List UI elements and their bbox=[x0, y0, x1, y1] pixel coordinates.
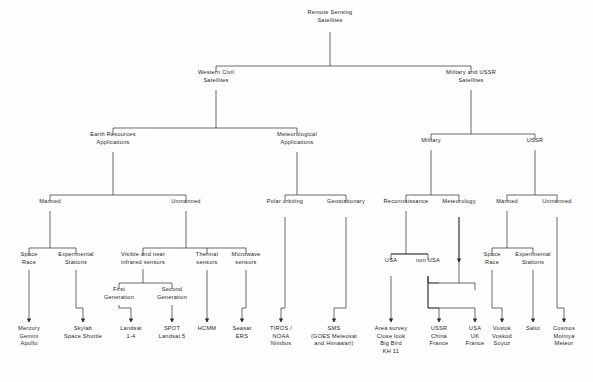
node-cosmos: CosmosMolniyaMeteor bbox=[553, 325, 575, 346]
node-expstations2: ExperimentalStations bbox=[515, 251, 551, 265]
node-skylab-line-0: Skylab bbox=[74, 325, 92, 331]
node-sms-line-2: and Himawari) bbox=[314, 340, 353, 346]
node-recon: Reconnaissance bbox=[384, 198, 429, 204]
arrowhead-tiros bbox=[279, 319, 283, 322]
node-sms-line-0: SMS bbox=[328, 325, 341, 331]
arrow-firstgen-to-landsat14 bbox=[119, 305, 131, 322]
arrowhead-landsat14 bbox=[129, 319, 133, 322]
node-areasurvey-line-3: KH 11 bbox=[383, 348, 399, 354]
node-usauk: USAUKFrance bbox=[466, 325, 485, 346]
node-tiros-line-2: Nimbus bbox=[271, 340, 291, 346]
arrowhead-usauk2 bbox=[457, 259, 461, 262]
node-meteoapp: MeteorologicalApplications bbox=[277, 131, 317, 145]
node-milussr-line-1: Satellites bbox=[458, 77, 483, 83]
node-spacerace1-line-1: Race bbox=[22, 259, 36, 265]
node-milussr: Military and USSRSatellites bbox=[446, 69, 496, 83]
node-salut-line-0: Salut bbox=[526, 325, 540, 331]
node-microwave-line-0: Microwave bbox=[232, 251, 261, 257]
node-ussrmanned-line-0: Manned bbox=[496, 198, 518, 204]
arrowhead-salut bbox=[531, 319, 535, 322]
node-cosmos-line-2: Meteor bbox=[555, 340, 574, 346]
node-mercury-line-2: Apollo bbox=[20, 340, 37, 346]
connector-manned bbox=[29, 211, 76, 254]
node-skylab-line-1: Space Shuttle bbox=[64, 333, 102, 339]
node-tiros-line-1: NOAA bbox=[273, 333, 290, 339]
node-earthres: Earth ResourcesApplications bbox=[90, 131, 135, 145]
node-meteorology: Meteorology bbox=[442, 198, 476, 204]
node-vostok-line-1: Voskod bbox=[492, 333, 512, 339]
connector-milussr bbox=[431, 90, 535, 140]
node-mercury-line-1: Gemini bbox=[19, 333, 38, 339]
node-firstgen-line-0: First bbox=[113, 286, 125, 292]
node-spacerace2-line-0: Space bbox=[483, 251, 500, 257]
node-meteorology-line-0: Meteorology bbox=[442, 198, 476, 204]
node-areasurvey: Area surveyClose lookBig BirdKH 11 bbox=[375, 325, 408, 354]
node-firstgen: FirstGeneration bbox=[104, 286, 134, 300]
node-ussrchina-line-0: USSR bbox=[431, 325, 448, 331]
node-tiros: TIROS /NOAANimbus bbox=[270, 325, 292, 346]
connector-meteoapp bbox=[285, 152, 346, 201]
node-milussr-line-0: Military and USSR bbox=[446, 69, 496, 75]
arrowhead-sms bbox=[332, 319, 336, 322]
node-visnir: Visible and nearinfrared sensors bbox=[121, 251, 165, 265]
node-usauk-line-2: France bbox=[466, 340, 485, 346]
node-hcmm-line-0: HCMM bbox=[198, 325, 216, 331]
node-geo: Geostationary bbox=[327, 198, 365, 204]
diagram-canvas: Remote SensingSatellitesWestern CivilSat… bbox=[0, 0, 593, 382]
node-secondgen-line-1: Generation bbox=[157, 294, 187, 300]
node-secondgen: SecondGeneration bbox=[157, 286, 187, 300]
node-manned: Manned bbox=[39, 198, 61, 204]
arrowhead-skylab bbox=[81, 319, 85, 322]
node-polar: Polar orbiting bbox=[267, 198, 303, 204]
node-geo-line-0: Geostationary bbox=[327, 198, 365, 204]
node-western: Western CivilSatellites bbox=[198, 69, 234, 83]
node-visnir-line-1: infrared sensors bbox=[121, 259, 165, 265]
node-ussrchina: USSRChinaFrance bbox=[430, 325, 449, 346]
node-usauk-line-0: USA bbox=[469, 325, 481, 331]
node-military: Military bbox=[421, 137, 441, 143]
arrow-geo-to-sms bbox=[334, 217, 346, 322]
node-recon-line-0: Reconnaissance bbox=[384, 198, 429, 204]
node-mercury: MercuryGeminiApollo bbox=[18, 325, 40, 346]
node-expstations1-line-0: Experimental bbox=[58, 251, 94, 257]
connector-recon bbox=[391, 211, 428, 260]
node-mercury-line-0: Mercury bbox=[18, 325, 40, 331]
node-skylab: SkylabSpace Shuttle bbox=[64, 325, 102, 339]
node-areasurvey-line-0: Area survey bbox=[375, 325, 408, 331]
node-areasurvey-line-1: Close look bbox=[377, 333, 406, 339]
node-hcmm: HCMM bbox=[198, 325, 216, 331]
node-root-line-0: Remote Sensing bbox=[308, 9, 353, 15]
node-salut: Salut bbox=[526, 325, 540, 331]
node-expstations2-line-0: Experimental bbox=[515, 251, 551, 257]
node-microwave-line-1: sensors bbox=[235, 259, 256, 265]
arrowhead-mercury bbox=[27, 319, 31, 322]
node-unmanned-line-0: Unmanned bbox=[171, 198, 200, 204]
node-manned-line-0: Manned bbox=[39, 198, 61, 204]
node-meteoapp-line-1: Applications bbox=[280, 139, 313, 145]
arrowhead-hcmm bbox=[205, 319, 209, 322]
connector-root bbox=[216, 32, 471, 72]
arrow-ussrunmanned-to-cosmos bbox=[557, 217, 564, 322]
connector-earthres bbox=[50, 152, 186, 201]
node-usauk-line-1: UK bbox=[471, 333, 479, 339]
node-western-line-0: Western Civil bbox=[198, 69, 234, 75]
node-western-line-1: Satellites bbox=[203, 77, 228, 83]
node-ussr: USSR bbox=[527, 137, 544, 143]
node-ussrunmanned: Unmanned bbox=[542, 198, 571, 204]
node-earthres-line-0: Earth Resources bbox=[90, 131, 135, 137]
connector-military bbox=[406, 150, 459, 201]
node-spacerace2-line-1: Race bbox=[485, 259, 499, 265]
node-spot-line-0: SPOT bbox=[164, 325, 181, 331]
arrowhead-seasat bbox=[240, 319, 244, 322]
node-root: Remote SensingSatellites bbox=[308, 9, 353, 23]
node-ussrmanned: Manned bbox=[496, 198, 518, 204]
node-military-line-0: Military bbox=[421, 137, 441, 143]
node-spacerace2: SpaceRace bbox=[483, 251, 500, 265]
arrow-spacerace2-to-vostok bbox=[492, 270, 502, 322]
node-cosmos-line-0: Cosmos bbox=[553, 325, 575, 331]
arrow-layer bbox=[27, 217, 566, 322]
node-ussr-line-0: USSR bbox=[527, 137, 544, 143]
node-secondgen-line-0: Second bbox=[162, 286, 182, 292]
node-sms-line-1: (GOES Meteosat bbox=[311, 333, 357, 339]
node-areasurvey-line-2: Big Bird bbox=[380, 340, 402, 346]
